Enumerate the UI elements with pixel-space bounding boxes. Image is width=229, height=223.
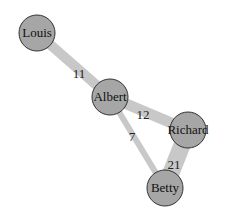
- node-label-albert: Albert: [93, 89, 127, 104]
- nodes: Louis Albert Richard Betty: [19, 15, 209, 206]
- network-graph: 11 12 7 21 Louis Albert Richard Betty: [0, 0, 229, 223]
- edge-label-albert-betty: 7: [129, 129, 136, 144]
- node-label-richard: Richard: [167, 122, 209, 137]
- node-label-louis: Louis: [22, 25, 52, 40]
- edge-label-louis-albert: 11: [73, 66, 86, 81]
- edge-label-albert-richard: 12: [137, 107, 150, 122]
- edge-label-richard-betty: 21: [168, 157, 181, 172]
- node-betty[interactable]: Betty: [147, 170, 183, 206]
- node-albert[interactable]: Albert: [92, 79, 128, 115]
- node-label-betty: Betty: [151, 180, 180, 195]
- node-louis[interactable]: Louis: [19, 15, 55, 51]
- node-richard[interactable]: Richard: [167, 112, 209, 148]
